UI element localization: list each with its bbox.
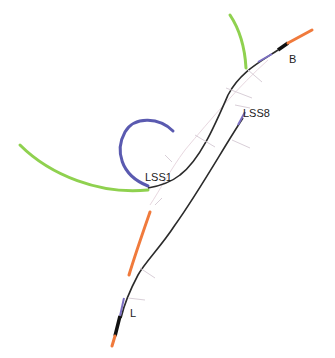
black-end-b	[278, 43, 288, 50]
black-end-l	[115, 316, 120, 336]
label-lss1: LSS1	[145, 171, 172, 183]
orange-segment-top	[288, 30, 312, 43]
green-arc-left	[20, 145, 148, 191]
label-l: L	[130, 307, 136, 319]
track-diagram: B LSS8 LSS1 L	[0, 0, 335, 358]
orange-segment-bottom	[112, 336, 115, 346]
label-lss8: LSS8	[243, 107, 270, 119]
orange-segment-middle	[129, 212, 150, 275]
label-b: B	[289, 53, 296, 65]
green-arc-top	[230, 15, 246, 68]
purple-segment-b	[258, 54, 272, 62]
faint-guide-line	[150, 60, 268, 205]
track-lower	[121, 118, 243, 318]
